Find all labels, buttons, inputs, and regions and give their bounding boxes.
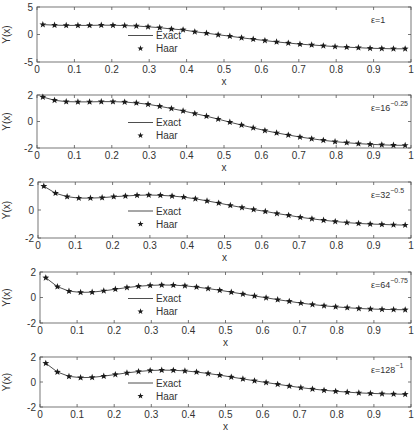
x-tick-label: 0.8: [330, 325, 344, 336]
x-tick-label: 0.9: [367, 409, 381, 420]
haar-star-marker: [215, 116, 222, 123]
x-tick-label: 0.7: [292, 150, 306, 161]
haar-star-marker: [170, 282, 177, 289]
x-tick-label: 0.6: [255, 240, 269, 251]
haar-star-marker: [251, 292, 258, 299]
x-tick-label: 0: [37, 325, 43, 336]
haar-star-marker: [273, 129, 280, 136]
x-tick-label: 0.1: [68, 240, 82, 251]
haar-star-marker: [216, 372, 223, 379]
legend-star-icon: [137, 221, 143, 227]
y-tick-label: -2: [25, 233, 34, 244]
x-tick-label: 0.4: [180, 64, 194, 75]
haar-star-marker: [239, 375, 246, 382]
axes-frame: [37, 7, 411, 62]
haar-star-marker: [77, 374, 84, 381]
x-tick-label: 0.4: [180, 150, 194, 161]
x-tick-label: 0.3: [144, 325, 158, 336]
haar-star-marker: [74, 22, 81, 29]
haar-star-marker: [332, 388, 339, 395]
y-tick-label: 0: [27, 116, 33, 127]
haar-star-marker: [89, 289, 96, 296]
haar-star-marker: [251, 377, 258, 384]
legend-haar-label: Haar: [156, 391, 178, 402]
x-tick-label: 0.5: [217, 64, 231, 75]
x-tick-label: 0.1: [70, 325, 84, 336]
figure: 00.10.20.30.40.50.60.70.80.9150-5xY(x)ε=…: [0, 0, 420, 435]
epsilon-annotation: ε=64−0.75: [371, 277, 408, 290]
x-tick-label: 0.2: [107, 325, 121, 336]
x-tick-label: 0.1: [70, 409, 84, 420]
haar-star-marker: [181, 367, 188, 374]
x-tick-label: 1: [408, 64, 414, 75]
haar-star-marker: [228, 289, 235, 296]
haar-star-marker: [133, 99, 140, 106]
haar-star-marker: [297, 300, 304, 307]
y-axis-label: Y(x): [1, 288, 12, 306]
haar-star-marker: [402, 142, 409, 149]
haar-star-marker: [203, 30, 210, 37]
x-tick-label: 1: [408, 150, 414, 161]
legend-exact-label: Exact: [156, 30, 181, 41]
haar-star-marker: [309, 215, 316, 222]
legend-haar-label: Haar: [156, 306, 178, 317]
x-tick-label: 0.6: [256, 325, 270, 336]
x-axis-label: x: [223, 421, 228, 432]
y-axis-label: Y(x): [1, 201, 12, 219]
haar-star-marker: [181, 282, 188, 289]
haar-star-marker: [286, 382, 293, 389]
x-tick-label: 0: [34, 64, 40, 75]
legend-star-icon: [137, 308, 143, 314]
x-axis-label: x: [222, 76, 227, 87]
x-tick-label: 0.5: [219, 325, 233, 336]
haar-star-marker: [215, 31, 222, 38]
epsilon-annotation: ε=16−0.25: [371, 100, 408, 113]
epsilon-annotation: ε=128−1: [371, 362, 403, 375]
y-tick-label: 2: [30, 352, 36, 363]
y-tick-label: 0: [28, 205, 34, 216]
x-tick-label: 0: [35, 240, 41, 251]
x-tick-label: 0.7: [293, 409, 307, 420]
haar-star-marker: [285, 131, 292, 138]
haar-star-marker: [226, 119, 233, 126]
haar-star-marker: [367, 390, 374, 397]
haar-star-marker: [367, 141, 374, 148]
legend-exact-label: Exact: [156, 378, 181, 389]
haar-star-marker: [122, 192, 129, 199]
haar-star-marker: [89, 374, 96, 381]
haar-star-marker: [157, 192, 164, 199]
haar-star-marker: [135, 283, 142, 290]
haar-star-marker: [110, 98, 117, 105]
haar-star-marker: [191, 110, 198, 117]
x-axis-label: x: [222, 252, 227, 263]
haar-star-marker: [238, 121, 245, 128]
y-tick-label: 0: [30, 377, 36, 388]
x-tick-label: 0.9: [367, 325, 381, 336]
haar-star-marker: [320, 217, 327, 224]
x-tick-label: 0.3: [142, 64, 156, 75]
haar-star-marker: [121, 98, 128, 105]
haar-star-marker: [250, 124, 257, 131]
haar-star-marker: [378, 221, 385, 228]
axes-frame: [38, 182, 411, 238]
haar-star-marker: [156, 103, 163, 110]
haar-star-marker: [239, 290, 246, 297]
axes-frame: [37, 95, 411, 148]
y-tick-label: 2: [30, 267, 36, 278]
x-tick-label: 0.2: [105, 64, 119, 75]
y-tick-label: 0: [30, 292, 36, 303]
x-tick-label: 0.7: [292, 240, 306, 251]
haar-star-marker: [343, 44, 350, 51]
y-axis-label: Y(x): [1, 373, 12, 391]
legend-haar-label: Haar: [156, 130, 178, 141]
x-tick-label: 0.9: [367, 64, 381, 75]
haar-star-marker: [112, 286, 119, 293]
x-tick-label: 0.8: [329, 240, 343, 251]
haar-star-marker: [343, 219, 350, 226]
haar-star-marker: [216, 287, 223, 294]
exact-series-line: [44, 186, 405, 225]
exact-series-line: [43, 25, 405, 49]
y-tick-label: -2: [27, 402, 36, 413]
haar-star-marker: [145, 101, 152, 108]
x-tick-label: 1: [408, 409, 414, 420]
